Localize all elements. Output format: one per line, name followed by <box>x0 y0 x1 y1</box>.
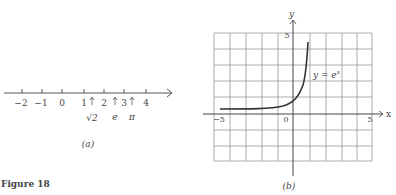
x-tick-label: 0 <box>283 115 288 124</box>
y-axis-label: y <box>288 9 295 19</box>
curve-label: y = ex <box>312 68 341 80</box>
y-tick-label: 5 <box>284 31 289 40</box>
caption-a: (a) <box>82 139 95 149</box>
tick-label: 4 <box>143 98 149 108</box>
x-axis-label: x <box>386 109 391 119</box>
marker-sqrt2: √2 <box>86 113 98 123</box>
figure-label: Figure 18 <box>1 179 50 189</box>
number-line: −2 −1 0 1 2 3 4 √2 e π (a) <box>4 89 172 149</box>
exp-plot: x y −5 0 5 5 y = ex (b) <box>203 9 391 191</box>
tick-label: 2 <box>101 98 107 108</box>
exp-curve <box>220 42 308 109</box>
caption-b: (b) <box>283 181 296 191</box>
marker-e: e <box>112 112 117 122</box>
tick-label: 3 <box>121 98 127 108</box>
marker-arrows <box>90 97 134 105</box>
x-tick-label: 5 <box>367 115 372 124</box>
marker-pi: π <box>128 112 136 122</box>
figure-canvas: −2 −1 0 1 2 3 4 √2 e π (a) <box>0 0 396 195</box>
tick-label: −2 <box>14 98 27 108</box>
tick-label: −1 <box>34 98 47 108</box>
tick-label: 0 <box>59 98 65 108</box>
tick-label: 1 <box>81 98 87 108</box>
x-tick-label: −5 <box>213 115 225 124</box>
